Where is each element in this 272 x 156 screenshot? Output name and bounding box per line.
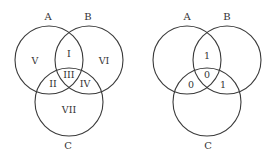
- set-label-b: B: [223, 11, 230, 22]
- region-b-only: VI: [98, 55, 110, 66]
- region-a-and-c: 0: [188, 79, 194, 90]
- region-a-b-c: III: [63, 69, 75, 80]
- venn-diagrams-canvas: A B C V VI I III II IV VII A B C 1 0 0 1: [0, 0, 272, 156]
- region-a-and-c: II: [49, 78, 57, 89]
- region-a-b-c: 0: [204, 69, 210, 80]
- set-label-b: B: [84, 11, 91, 22]
- set-label-c: C: [64, 140, 72, 151]
- region-a-only: V: [31, 55, 39, 66]
- region-c-only: VII: [61, 104, 77, 115]
- region-a-and-b: 1: [204, 50, 210, 61]
- set-label-a: A: [182, 11, 191, 22]
- region-a-and-b: I: [67, 48, 71, 59]
- region-b-and-c: 1: [220, 79, 226, 90]
- set-label-c: C: [204, 140, 212, 151]
- set-label-a: A: [43, 11, 52, 22]
- venn-diagram-left: A B C V VI I III II IV VII: [15, 11, 123, 151]
- venn-diagram-right: A B C 1 0 0 1: [153, 11, 261, 151]
- region-b-and-c: IV: [80, 78, 91, 89]
